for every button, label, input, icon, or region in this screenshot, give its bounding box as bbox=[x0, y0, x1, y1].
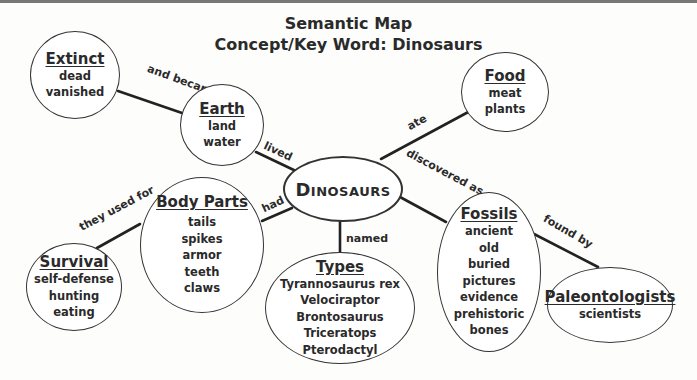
node-item: evidence bbox=[460, 289, 518, 306]
node-food: Food meat plants bbox=[461, 52, 549, 132]
node-item: eating bbox=[53, 304, 94, 321]
node-heading: Fossils bbox=[460, 205, 517, 223]
node-item: old bbox=[479, 240, 499, 257]
node-center-dinosaurs: Dinosaurs bbox=[283, 156, 403, 222]
node-heading: Extinct bbox=[46, 50, 105, 68]
node-paleontologists: Paleontologists scientists bbox=[547, 267, 673, 343]
link-label-named: named bbox=[346, 232, 396, 245]
node-item: vanished bbox=[46, 84, 104, 101]
line-body-survival bbox=[97, 224, 140, 248]
node-heading: Body Parts bbox=[156, 193, 248, 211]
line-extinct-earth bbox=[118, 91, 182, 113]
node-heading: Paleontologists bbox=[545, 288, 676, 306]
node-item: buried bbox=[468, 256, 510, 273]
node-item: water bbox=[203, 134, 240, 151]
node-item: Tyrannosaurus rex bbox=[280, 276, 400, 293]
center-label: Dinosaurs bbox=[295, 179, 390, 200]
node-item: hunting bbox=[49, 288, 99, 305]
node-item: bones bbox=[470, 322, 509, 339]
node-item: Velociraptor bbox=[300, 292, 379, 309]
node-item: claws bbox=[184, 280, 220, 297]
node-extinct: Extinct dead vanished bbox=[30, 31, 120, 119]
node-heading: Food bbox=[485, 67, 526, 85]
node-fossils: Fossils ancient old buried pictures evid… bbox=[437, 192, 541, 352]
node-earth: Earth land water bbox=[180, 84, 264, 166]
node-item: pictures bbox=[463, 273, 516, 290]
node-types: Types Tyrannosaurus rex Velociraptor Bro… bbox=[265, 252, 415, 364]
line-center-fossils bbox=[400, 197, 446, 222]
node-item: Brontosaurus bbox=[296, 309, 383, 326]
node-heading: Earth bbox=[199, 100, 245, 118]
node-survival: Survival self-defense hunting eating bbox=[26, 243, 122, 331]
node-item: scientists bbox=[579, 306, 641, 323]
node-item: teeth bbox=[185, 264, 220, 281]
node-item: armor bbox=[183, 247, 222, 264]
node-item: ancient bbox=[465, 223, 513, 240]
node-item: tails bbox=[188, 214, 216, 231]
node-item: Triceratops bbox=[304, 325, 377, 342]
node-item: land bbox=[208, 118, 236, 135]
node-item: prehistoric bbox=[454, 306, 525, 323]
node-body-parts: Body Parts tails spikes armor teeth claw… bbox=[140, 177, 264, 313]
node-item: self-defense bbox=[34, 271, 114, 288]
node-item: plants bbox=[485, 101, 525, 118]
node-item: spikes bbox=[181, 231, 222, 248]
node-item: meat bbox=[488, 85, 521, 102]
node-heading: Survival bbox=[40, 253, 109, 271]
node-item: dead bbox=[59, 68, 91, 85]
node-item: Pterodactyl bbox=[302, 342, 377, 359]
node-heading: Types bbox=[316, 258, 364, 276]
